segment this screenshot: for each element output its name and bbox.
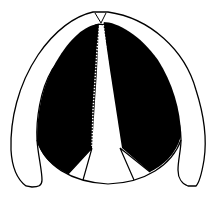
anatomical-diagram [0,0,217,199]
